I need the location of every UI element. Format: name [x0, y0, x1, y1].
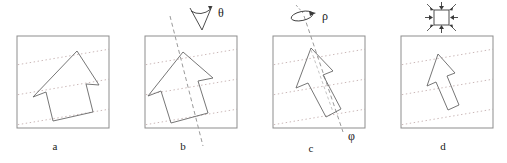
phi-axis-line: [304, 16, 343, 132]
dotted-line: [266, 108, 372, 126]
panel-d: d: [394, 2, 500, 152]
dotted-line: [266, 78, 372, 96]
panel-c: ρ φ c: [266, 5, 372, 154]
scale-square-icon: [425, 2, 458, 33]
rho-symbol: ρ: [322, 9, 328, 23]
dotted-line: [394, 108, 500, 126]
panel-label-c: c: [309, 142, 314, 154]
panel-d-dotted-lines: [394, 48, 500, 126]
panel-c-frame: [273, 36, 365, 128]
panel-label-d: d: [440, 140, 446, 152]
figure-svg: a θ b: [0, 0, 507, 163]
panel-b-dotted-lines: [138, 48, 244, 126]
dotted-line: [394, 78, 500, 96]
rotation-arrow-icon: [290, 5, 316, 23]
panel-label-b: b: [180, 140, 186, 152]
panel-c-dotted-lines: [266, 48, 372, 126]
panel-b: θ b: [138, 6, 244, 152]
panel-a-dotted-lines: [10, 48, 116, 126]
dotted-line: [138, 108, 244, 126]
figure-container: a θ b: [0, 0, 507, 163]
dotted-line: [10, 108, 116, 126]
dotted-line: [138, 48, 244, 66]
dotted-line: [10, 78, 116, 96]
panel-label-a: a: [53, 140, 58, 152]
panel-a: a: [10, 36, 116, 152]
dotted-line: [394, 48, 500, 66]
angle-wedge-icon: [190, 6, 212, 30]
panel-d-frame: [401, 36, 493, 128]
panel-a-frame: [17, 36, 109, 128]
scaled-arrow-shape: [427, 54, 459, 110]
dotted-line: [10, 48, 116, 66]
theta-symbol: θ: [218, 6, 224, 20]
phi-symbol: φ: [348, 129, 355, 143]
